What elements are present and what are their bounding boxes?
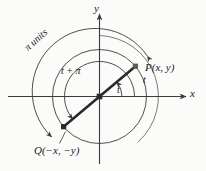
figure-canvas [0, 0, 206, 171]
unit-circle-figure: y x P(x, y) Q(−x, −y) t t t + π π units [0, 0, 206, 171]
point-p-label: P(x, y) [145, 62, 174, 73]
angle-t-outer-label: t [143, 75, 146, 85]
x-axis-label: x [190, 88, 195, 99]
q-leader-line [60, 132, 66, 144]
y-axis-label: y [94, 3, 99, 14]
point-p-marker [133, 64, 138, 69]
angle-t-inner-label: t [117, 85, 120, 95]
angle-t-plus-pi-label: t + π [61, 66, 81, 76]
point-q-marker [61, 124, 66, 129]
point-q-label: Q(−x, −y) [34, 145, 79, 156]
origin-marker [97, 94, 103, 100]
